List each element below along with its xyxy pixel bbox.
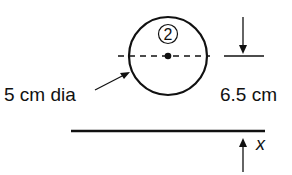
diameter-label: 5 cm dia	[4, 84, 76, 105]
distance-label: 6.5 cm	[220, 84, 277, 105]
ground-plane: x	[71, 131, 266, 154]
axis-label: x	[255, 134, 266, 154]
up-arrow-icon	[239, 138, 247, 147]
circle-group: 2	[118, 17, 210, 95]
leader-line	[95, 74, 126, 90]
center-dot	[165, 53, 172, 60]
diameter-annotation: 5 cm dia	[4, 72, 130, 105]
circle-number: 2	[164, 26, 173, 43]
dimension-annotation: 6.5 cm	[220, 17, 277, 172]
down-arrow-icon	[239, 45, 247, 54]
arrowhead-icon	[120, 72, 130, 79]
diagram-canvas: 2 5 cm dia 6.5 cm x	[0, 0, 292, 175]
